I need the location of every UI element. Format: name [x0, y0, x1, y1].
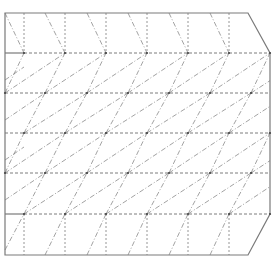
vertex-node [64, 52, 66, 54]
diagonal-fold-line [147, 93, 210, 133]
crease-pattern-diagram [0, 0, 276, 263]
diagonal-fold-line [65, 93, 87, 133]
vertex-node [187, 132, 189, 134]
diagonal-fold-line [128, 13, 147, 53]
vertex-nodes [4, 52, 271, 215]
diagonal-fold-line [188, 93, 210, 133]
diagonal-fold-line [251, 81, 270, 93]
vertex-node [4, 172, 6, 174]
diagonal-fold-line [229, 173, 251, 214]
diagonal-fold-line [87, 133, 147, 173]
vertex-node [250, 92, 252, 94]
diagonal-fold-line [5, 173, 45, 200]
diagonal-fold-line [169, 214, 188, 255]
diagonal-fold-line [169, 53, 229, 93]
diagonal-fold-line [106, 173, 169, 214]
vertex-node [228, 52, 230, 54]
vertex-node [269, 52, 271, 54]
vertex-node [23, 52, 25, 54]
vertex-node [105, 132, 107, 134]
diagonal-fold-line [87, 13, 106, 53]
diagonal-fold-line [188, 173, 210, 214]
diagonal-fold-line [5, 133, 65, 173]
vertex-node [228, 132, 230, 134]
diagonal-fold-line [24, 173, 87, 214]
diagonal-fold-line [147, 173, 169, 214]
diagonal-fold-line [210, 53, 270, 93]
diagonal-fold-line [229, 93, 251, 133]
diagonal-fold-line [229, 187, 270, 214]
diagonal-fold-line [106, 93, 169, 133]
horizontal-fold-lines [5, 53, 270, 214]
diagonal-fold-line [5, 147, 24, 160]
diagonal-fold-lines [5, 13, 270, 255]
vertex-node [44, 92, 46, 94]
diagonal-fold-line [106, 93, 128, 133]
diagonal-fold-line [45, 53, 65, 93]
vertex-node [269, 132, 271, 134]
diagonal-fold-line [169, 133, 229, 173]
vertex-node [23, 213, 25, 215]
vertex-node [168, 172, 170, 174]
vertex-node [187, 52, 189, 54]
vertex-node [4, 92, 6, 94]
vertex-node [187, 213, 189, 215]
diagonal-fold-line [87, 214, 106, 255]
vertex-node [146, 52, 148, 54]
vertex-node [269, 213, 271, 215]
diagonal-fold-line [45, 214, 65, 255]
vertex-node [86, 172, 88, 174]
diagonal-fold-line [147, 93, 169, 133]
vertex-node [127, 92, 129, 94]
paper-outline [5, 13, 270, 255]
diagonal-fold-line [5, 53, 65, 93]
vertex-node [209, 172, 211, 174]
vertex-node [146, 132, 148, 134]
diagonal-fold-line [5, 214, 24, 250]
vertex-node [105, 52, 107, 54]
diagonal-fold-line [5, 67, 24, 80]
vertex-node [228, 213, 230, 215]
diagonal-fold-line [210, 133, 270, 173]
diagonal-fold-line [210, 13, 229, 53]
diagonal-fold-line [147, 173, 210, 214]
vertex-node [86, 92, 88, 94]
solid-edge-segments [5, 53, 24, 214]
diagonal-fold-line [5, 13, 24, 53]
diagonal-fold-line [229, 106, 270, 133]
diagonal-fold-line [45, 133, 65, 173]
diagonal-fold-line [128, 133, 188, 173]
vertex-node [64, 132, 66, 134]
vertex-node [146, 213, 148, 215]
vertex-node [23, 132, 25, 134]
vertex-node [127, 172, 129, 174]
diagonal-fold-line [169, 13, 188, 53]
diagonal-fold-line [24, 173, 45, 214]
diagonal-fold-line [251, 161, 270, 173]
diagonal-fold-line [5, 93, 45, 120]
vertex-node [105, 213, 107, 215]
diagonal-fold-line [65, 173, 87, 214]
diagonal-fold-line [65, 173, 128, 214]
vertical-fold-lines [24, 13, 229, 255]
diagonal-fold-line [106, 173, 128, 214]
vertex-node [168, 92, 170, 94]
diagonal-fold-line [24, 93, 87, 133]
vertex-node [44, 172, 46, 174]
diagonal-fold-line [188, 173, 251, 214]
diagonal-fold-line [128, 214, 147, 255]
diagonal-fold-line [45, 13, 65, 53]
diagonal-fold-line [128, 53, 188, 93]
vertex-node [64, 213, 66, 215]
diagonal-fold-line [87, 53, 147, 93]
diagonal-fold-line [188, 93, 251, 133]
diagonal-fold-line [24, 93, 45, 133]
vertex-node [209, 92, 211, 94]
diagonal-fold-line [65, 93, 128, 133]
diagonal-fold-line [210, 214, 229, 255]
vertex-node [250, 172, 252, 174]
